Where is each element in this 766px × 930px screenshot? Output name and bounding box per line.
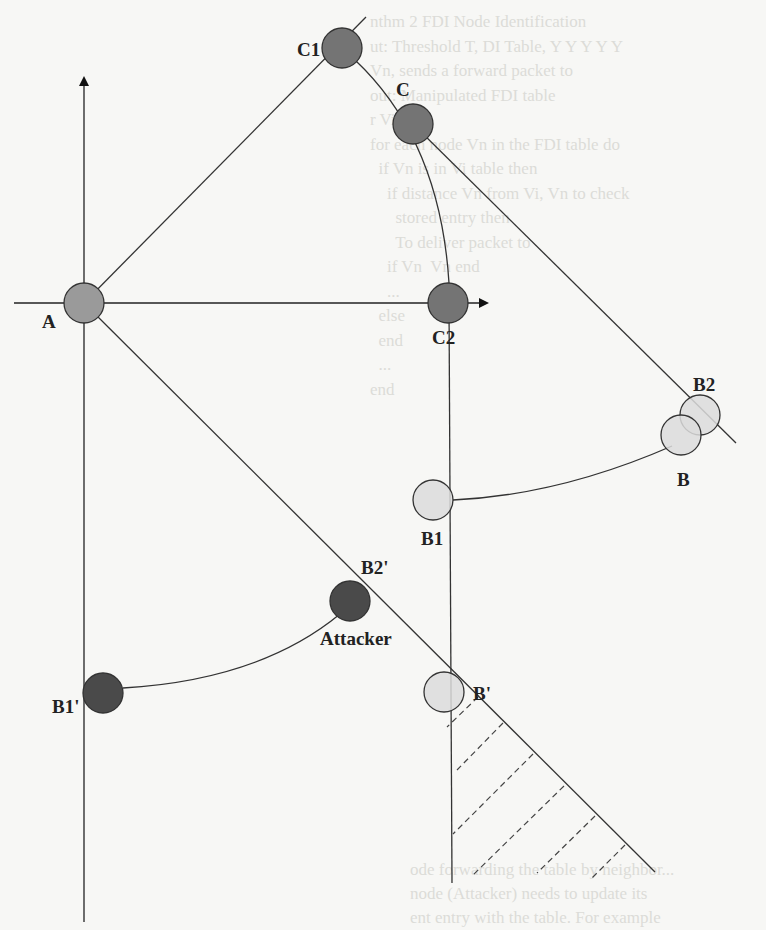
movement-curve bbox=[453, 446, 672, 500]
label-attacker: Attacker bbox=[320, 628, 392, 649]
label-b1: B1 bbox=[421, 528, 443, 549]
node-c1 bbox=[322, 28, 362, 68]
label-b1p: B1' bbox=[52, 696, 79, 717]
label-b2: B2 bbox=[693, 374, 715, 395]
label-b: B bbox=[677, 469, 690, 490]
node-b bbox=[661, 415, 701, 455]
node-b1p bbox=[83, 673, 123, 713]
connection-line bbox=[84, 17, 366, 303]
hatch-line bbox=[537, 816, 595, 873]
node-c2 bbox=[428, 283, 468, 323]
node-b1 bbox=[413, 480, 453, 520]
hatch-line bbox=[590, 845, 625, 880]
hatch-line bbox=[473, 786, 564, 875]
lines bbox=[84, 17, 736, 883]
label-c2: C2 bbox=[432, 327, 455, 348]
hatch-line bbox=[457, 723, 503, 770]
connection-line bbox=[84, 303, 655, 872]
curves bbox=[123, 60, 672, 688]
label-bp: B' bbox=[473, 683, 491, 704]
node-a bbox=[64, 283, 104, 323]
hatch-line bbox=[453, 754, 533, 834]
movement-curve bbox=[123, 614, 340, 688]
connection-line bbox=[449, 303, 452, 883]
label-c1: C1 bbox=[297, 39, 320, 60]
label-b2p: B2' bbox=[361, 557, 388, 578]
hatch-lines bbox=[447, 697, 625, 880]
node-labels: AC1CC2B2BB1B2'AttackerB1'B' bbox=[42, 39, 715, 717]
node-b2p bbox=[330, 581, 370, 621]
node-bp bbox=[424, 672, 464, 712]
label-a: A bbox=[42, 311, 56, 332]
label-c: C bbox=[396, 79, 410, 100]
node-c bbox=[393, 104, 433, 144]
connection-line bbox=[413, 124, 736, 443]
